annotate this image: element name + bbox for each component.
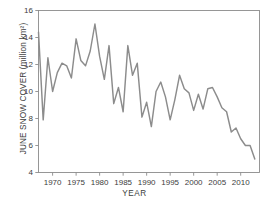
x-tick-label: 2000 bbox=[185, 178, 203, 187]
x-axis-ticks: 197019751980198519901995200020052010 bbox=[44, 173, 250, 187]
x-tick-label: 1975 bbox=[67, 178, 85, 187]
y-tick-label: 4 bbox=[29, 168, 34, 177]
x-tick-label: 1970 bbox=[44, 178, 62, 187]
x-tick-label: 2010 bbox=[232, 178, 250, 187]
y-tick-label: 16 bbox=[24, 6, 33, 15]
y-tick-label: 12 bbox=[24, 60, 33, 69]
y-tick-label: 6 bbox=[29, 141, 34, 150]
plot-frame bbox=[39, 11, 260, 173]
y-tick-label: 10 bbox=[24, 87, 33, 96]
x-tick-label: 2005 bbox=[208, 178, 226, 187]
plot-area: 46810121416 1970197519801985199019952000… bbox=[0, 0, 269, 206]
x-tick-label: 1990 bbox=[138, 178, 156, 187]
y-tick-label: 14 bbox=[24, 33, 33, 42]
snow-cover-line-chart: JUNE SNOW COVER (million km²) YEAR 46810… bbox=[0, 0, 269, 206]
x-tick-label: 1980 bbox=[91, 178, 109, 187]
x-tick-label: 1985 bbox=[114, 178, 132, 187]
x-tick-label: 1995 bbox=[161, 178, 179, 187]
y-axis-ticks: 46810121416 bbox=[24, 6, 38, 177]
data-line-june-snow-cover bbox=[39, 24, 255, 159]
y-tick-label: 8 bbox=[29, 114, 34, 123]
